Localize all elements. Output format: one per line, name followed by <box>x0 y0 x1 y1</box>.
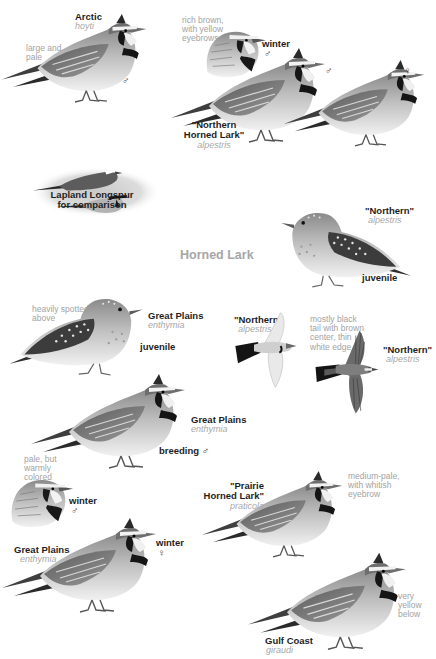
northern-flight-ventral-illustration <box>234 302 314 398</box>
gulf-coast-subspecies: giraudi <box>266 646 293 656</box>
northern-female-sex: ♀ <box>404 66 412 77</box>
great-plains-juvenile-age: juvenile <box>140 342 175 352</box>
prairie-horned-lark-name: "Prairie Horned Lark" <box>202 481 264 502</box>
great-plains-winter-female-illustration <box>0 500 160 628</box>
arctic-sex-symbol: ♂ <box>122 76 130 87</box>
field-guide-plate: Arctic hoyti large and pale ♂ rich brown… <box>0 0 436 659</box>
great-plains-winter-female-sex: ♀ <box>158 548 166 559</box>
great-plains-breeding-age-text: breeding <box>159 445 199 456</box>
arctic-subspecies: hoyti <box>75 22 94 32</box>
gulf-coast-note: very yellow below <box>398 592 430 620</box>
northern-horned-lark-name-line2: Horned Lark" <box>176 130 252 140</box>
northern-juvenile-age: juvenile <box>362 273 397 283</box>
prairie-horned-lark-name-line2: Horned Lark" <box>202 491 264 501</box>
northern-flight-dorsal-illustration <box>314 328 390 416</box>
great-plains-juvenile-subspecies: enthymia <box>148 321 185 331</box>
prairie-horned-lark-subspecies: praticola <box>202 502 264 512</box>
northern-flight-dark-subspecies: alpestris <box>386 355 420 365</box>
great-plains-breeding-subspecies: enthymia <box>191 425 228 435</box>
lapland-longspur-caption: for comparison <box>44 200 140 210</box>
arctic-note: large and pale <box>26 44 64 62</box>
lapland-longspur-label: Lapland Longspur for comparison <box>44 190 140 211</box>
northern-horned-lark-subspecies: alpestris <box>176 141 252 151</box>
northern-horned-lark-name: "Northern Horned Lark" <box>176 120 252 141</box>
northern-juvenile-subspecies: alpestris <box>368 216 402 226</box>
prairie-horned-lark-note: medium-pale, with whitish eyebrow <box>348 472 400 500</box>
great-plains-juvenile-illustration <box>0 282 150 378</box>
plate-title: Horned Lark <box>180 249 254 263</box>
